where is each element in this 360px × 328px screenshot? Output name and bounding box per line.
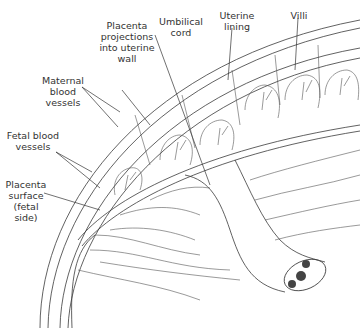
label-fetal-blood-vessels: Fetal blood vessels <box>2 130 64 152</box>
label-uterine-lining: Uterine lining <box>214 10 260 32</box>
label-placenta-surface: Placenta surface (fetal side) <box>4 179 48 223</box>
label-placenta-projections: Placenta projections into uterine wall <box>95 20 159 64</box>
label-maternal-blood-vessels: Maternal blood vessels <box>38 75 88 108</box>
label-umbilical-cord: Umbilical cord <box>155 16 207 38</box>
placenta-illustration <box>0 0 360 328</box>
placenta-diagram: Placenta projections into uterine wall U… <box>0 0 360 328</box>
leader-lines <box>44 18 298 210</box>
label-villi: Villi <box>283 10 315 21</box>
